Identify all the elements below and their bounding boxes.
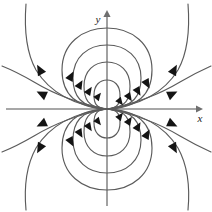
flow-arrow-icon (33, 142, 46, 156)
flow-arrow-icon (166, 87, 179, 100)
flow-arrow-icon (166, 118, 179, 131)
flow-arrow-icon (168, 63, 181, 77)
outer-curve-lower-left-steep (25, 109, 107, 210)
vector-field-figure: y x (0, 0, 212, 212)
flow-arrow-icon (33, 63, 46, 77)
outer-curve-upper-right-shallow (107, 66, 211, 109)
flow-arrow-icon (35, 118, 48, 131)
y-axis-label: y (95, 13, 101, 25)
outer-curve-lower-right-shallow (107, 109, 211, 152)
vector-field-canvas: y x (0, 0, 212, 212)
y-axis-arrowhead (103, 10, 110, 17)
flow-arrow-icon (65, 136, 77, 148)
flow-arrow-icon (84, 85, 95, 96)
x-axis-label: x (197, 112, 203, 124)
outer-curve-upper-right-steep (107, 4, 189, 109)
flow-arrow-icon (65, 70, 77, 82)
flow-arrow-icon (35, 87, 48, 100)
flow-arrow-icon (133, 86, 144, 98)
flow-arrow-icon (84, 122, 95, 133)
flow-arrow-icon (133, 120, 144, 132)
outer-curve-lower-right-steep (107, 109, 189, 210)
flow-arrow-icon (168, 142, 181, 156)
